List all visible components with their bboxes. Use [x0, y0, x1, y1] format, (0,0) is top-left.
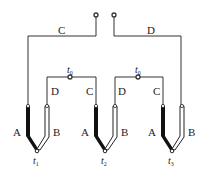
label-inner2-d: D — [118, 85, 126, 97]
thermocouple-3 — [161, 104, 184, 152]
leg-b-2 — [105, 106, 117, 150]
label-b-3: B — [188, 126, 195, 138]
thermocouple-diagram: C D t0 D C t0 D C A B t1 A B t2 — [0, 0, 208, 171]
label-a-1: A — [13, 126, 21, 138]
hot-junction-2 — [103, 149, 107, 153]
leg-a-3 — [161, 106, 174, 150]
leg-b-1 — [37, 106, 49, 150]
label-a-3: A — [148, 126, 156, 138]
label-outer-d: D — [147, 24, 155, 36]
thermocouple-2 — [94, 104, 117, 152]
leg-b-3 — [172, 106, 184, 150]
label-t0-2: t0 — [135, 64, 141, 76]
thermocouple-1 — [26, 104, 49, 152]
terminal-left — [94, 13, 98, 17]
label-t2: t2 — [101, 155, 107, 167]
label-inner1-c: C — [86, 85, 93, 97]
terminal-right — [112, 13, 116, 17]
label-b-1: B — [53, 126, 60, 138]
leg-a-2 — [94, 106, 107, 150]
label-t3: t3 — [168, 155, 174, 167]
label-t1: t1 — [33, 155, 39, 167]
label-b-2: B — [121, 126, 128, 138]
label-t0-1: t0 — [67, 64, 73, 76]
leg-a-1 — [26, 106, 39, 150]
hot-junction-3 — [170, 149, 174, 153]
label-inner2-c: C — [153, 85, 160, 97]
label-inner1-d: D — [51, 85, 59, 97]
label-outer-c: C — [58, 24, 65, 36]
hot-junction-1 — [35, 149, 39, 153]
label-a-2: A — [81, 126, 89, 138]
